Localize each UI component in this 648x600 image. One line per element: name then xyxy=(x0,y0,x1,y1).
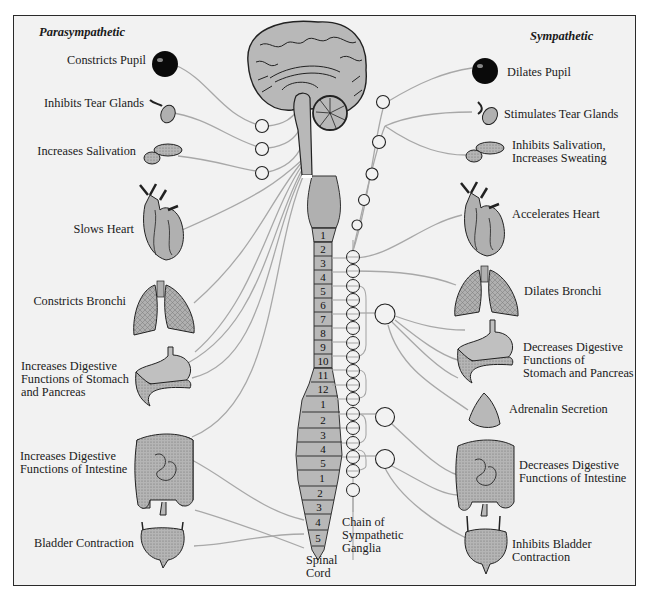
label-increases-digestive-intestine: Increases Digestive Functions of Intesti… xyxy=(20,450,127,476)
segment-t3: 3 xyxy=(320,257,326,269)
label-decreases-digestive-stomach: Decreases Digestive Functions of Stomach… xyxy=(523,341,634,380)
segment-t7: 7 xyxy=(320,313,326,325)
intestine-icon-right xyxy=(456,440,514,516)
segment-l1: 1 xyxy=(320,398,326,410)
segment-l2: 2 xyxy=(320,414,326,426)
stomach-pancreas-icon-left xyxy=(136,347,191,406)
segment-s1: 1 xyxy=(319,472,325,484)
parasympathetic-header: Parasympathetic xyxy=(39,25,125,40)
segment-t12: 12 xyxy=(318,383,329,395)
segment-s2: 2 xyxy=(317,487,323,499)
label-inhibits-salivation: Inhibits Salivation, Increases Sweating xyxy=(512,139,607,165)
segment-t11: 11 xyxy=(318,369,329,381)
intestine-icon-left xyxy=(135,434,193,515)
heart-icon-right xyxy=(461,182,504,256)
label-bladder-contraction: Bladder Contraction xyxy=(34,537,134,550)
segment-t8: 8 xyxy=(320,327,326,339)
left-organs xyxy=(134,51,194,568)
adrenal-gland-icon-right xyxy=(469,393,500,427)
segment-c1: 1 xyxy=(320,229,326,241)
label-line: and Pancreas xyxy=(21,386,129,399)
segment-t5: 5 xyxy=(320,285,326,297)
label-line: Functions of Intestine xyxy=(519,472,626,485)
spinal-cord: 1 2 3 4 5 6 7 8 9 10 11 12 1 2 3 4 5 1 2… xyxy=(296,175,342,560)
label-increases-digestive-stomach: Increases Digestive Functions of Stomach… xyxy=(21,360,129,399)
label-line: Functions of Intestine xyxy=(20,463,127,476)
tear-gland-icon-right xyxy=(478,102,501,127)
label-stimulates-tear-glands: Stimulates Tear Glands xyxy=(504,108,618,121)
label-inhibits-bladder-contraction: Inhibits Bladder Contraction xyxy=(512,538,592,564)
sympathetic-header: Sympathetic xyxy=(530,29,593,44)
label-line: Increases Sweating xyxy=(512,152,607,165)
label-slows-heart: Slows Heart xyxy=(74,223,134,236)
label-accelerates-heart: Accelerates Heart xyxy=(512,208,600,221)
segment-t4: 4 xyxy=(320,271,326,283)
right-organs xyxy=(455,58,518,574)
segment-s4: 4 xyxy=(315,516,321,528)
segment-l3: 3 xyxy=(320,429,326,441)
label-decreases-digestive-intestine: Decreases Digestive Functions of Intesti… xyxy=(519,459,626,485)
segment-c2: 2 xyxy=(320,243,326,255)
tear-gland-icon-left xyxy=(150,100,178,125)
label-dilates-bronchi: Dilates Bronchi xyxy=(524,285,602,298)
bladder-icon-right xyxy=(465,516,507,574)
label-dilates-pupil: Dilates Pupil xyxy=(507,66,571,79)
bladder-icon-left xyxy=(141,522,184,568)
eye-icon-left xyxy=(152,51,178,77)
label-line: Ganglia xyxy=(342,542,403,555)
label-line: Cord xyxy=(306,567,337,580)
segment-s5: 5 xyxy=(315,532,321,544)
label-increases-salivation: Increases Salivation xyxy=(37,145,136,158)
label-line: Contraction xyxy=(512,551,592,564)
label-adrenalin-secretion: Adrenalin Secretion xyxy=(509,403,608,416)
stomach-pancreas-icon-right xyxy=(458,320,513,383)
label-constricts-bronchi: Constricts Bronchi xyxy=(33,295,126,308)
label-constricts-pupil: Constricts Pupil xyxy=(67,54,146,67)
eye-icon-right xyxy=(472,58,498,84)
label-inhibits-tear-glands: Inhibits Tear Glands xyxy=(44,97,144,110)
lungs-icon-right xyxy=(455,266,518,316)
segment-t6: 6 xyxy=(320,299,326,311)
segment-t9: 9 xyxy=(320,341,326,353)
lungs-icon-left xyxy=(134,281,194,335)
segment-l4: 4 xyxy=(320,443,326,455)
segment-l5: 5 xyxy=(320,457,326,469)
segment-s3: 3 xyxy=(316,501,322,513)
heart-icon-left xyxy=(140,184,183,260)
salivary-gland-icon-right xyxy=(466,142,504,162)
label-chain-of-sympathetic-ganglia: Chain of Sympathetic Ganglia xyxy=(342,516,403,555)
segment-t10: 10 xyxy=(318,355,330,367)
label-line: Stomach and Pancreas xyxy=(523,367,634,380)
salivary-gland-icon-left xyxy=(144,144,182,164)
label-spinal-cord: Spinal Cord xyxy=(306,554,337,580)
